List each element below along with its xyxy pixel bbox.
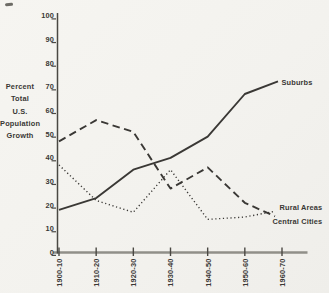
y-tick-label: 40 — [45, 153, 54, 162]
central-cities-line — [59, 120, 275, 216]
plot-area: 10090807060504030201001900-101910-201920… — [0, 0, 329, 293]
suburbs-line — [59, 81, 278, 210]
y-tick-label: 70 — [45, 82, 54, 91]
y-tick-label: 50 — [45, 130, 54, 139]
x-tick-label: 1950-60 — [241, 259, 250, 287]
x-tick-label: 1900-10 — [55, 259, 64, 287]
y-tick-label: 60 — [45, 106, 54, 115]
x-tick-label: 1960-70 — [278, 259, 287, 287]
suburbs-label: Suburbs — [282, 78, 313, 87]
rural-areas-line — [59, 165, 274, 219]
y-tick-label: 90 — [45, 35, 54, 44]
population-growth-chart: PercentTotalU.S.PopulationGrowth 1009080… — [0, 0, 329, 293]
y-tick-label: 10 — [45, 224, 54, 233]
x-tick-label: 1940-50 — [204, 259, 213, 287]
x-tick-label: 1910-20 — [92, 259, 101, 287]
y-tick-label: 80 — [45, 59, 54, 68]
central-cities-label: Central Cities — [273, 217, 323, 226]
x-tick-label: 1920-30 — [129, 259, 138, 287]
x-tick-label: 1930-40 — [166, 259, 175, 287]
y-tick-label: 20 — [45, 201, 54, 210]
y-tick-label: 100 — [41, 11, 54, 20]
y-tick-label: 0 — [50, 248, 54, 257]
y-tick-label: 30 — [45, 177, 54, 186]
rural-areas-label: Rural Areas — [280, 203, 323, 212]
